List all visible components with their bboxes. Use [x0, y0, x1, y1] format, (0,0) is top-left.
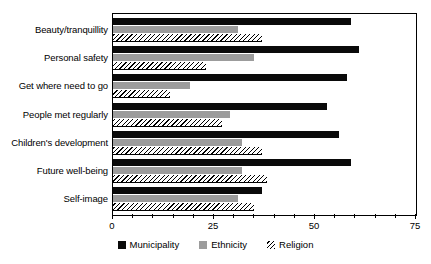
legend-item[interactable]: Ethnicity [199, 240, 247, 250]
legend-label: Religion [279, 240, 313, 250]
axis-tick-minor [233, 214, 234, 218]
bar-chart: Beauty/tranquillityPersonal safetyGet wh… [0, 0, 431, 264]
bar-religion [113, 62, 206, 70]
legend-item[interactable]: Municipality [118, 240, 180, 250]
bar-ethnicity [113, 167, 242, 174]
bar-group [113, 74, 416, 97]
hatched-swatch [267, 241, 275, 249]
category-label: People met regularly [0, 110, 108, 120]
axis-tick-minor [152, 214, 153, 218]
axis-tick-major [415, 214, 416, 219]
bar-religion [113, 175, 267, 183]
bar-municipality [113, 46, 359, 53]
category-label: Self-image [0, 194, 108, 204]
bar-ethnicity [113, 195, 238, 202]
bar-municipality [113, 159, 351, 166]
axis-tick-minor [294, 214, 295, 218]
bar-municipality [113, 103, 327, 110]
bar-religion [113, 34, 262, 42]
bar-ethnicity [113, 54, 254, 61]
legend-label: Ethnicity [211, 240, 247, 250]
plot-area [112, 13, 417, 216]
bar-group [113, 159, 416, 182]
bar-ethnicity [113, 26, 238, 33]
bar-group [113, 18, 416, 41]
bar-group [113, 131, 416, 154]
category-label: Beauty/tranquillity [0, 25, 108, 35]
legend-item[interactable]: Religion [267, 240, 313, 250]
bar-religion [113, 203, 254, 211]
axis-tick-minor [274, 214, 275, 218]
axis-tick-major [213, 214, 214, 219]
axis-tick-label: 0 [97, 220, 127, 231]
bar-ethnicity [113, 82, 190, 89]
bar-municipality [113, 18, 351, 25]
category-label: Personal safety [0, 53, 108, 63]
bar-municipality [113, 131, 339, 138]
bar-religion [113, 90, 170, 98]
category-label: Get where need to go [0, 81, 108, 91]
axis-tick-major [314, 214, 315, 219]
axis-tick-minor [395, 214, 396, 218]
axis-tick-label: 25 [198, 220, 228, 231]
value-axis: 0255075 [112, 214, 416, 238]
bar-municipality [113, 74, 347, 81]
axis-tick-label: 75 [400, 220, 430, 231]
axis-tick-minor [193, 214, 194, 218]
bar-group [113, 46, 416, 69]
bar-religion [113, 147, 262, 155]
axis-tick-minor [354, 214, 355, 218]
bar-group [113, 187, 416, 210]
chart-legend: MunicipalityEthnicityReligion [0, 240, 431, 250]
axis-tick-major [112, 214, 113, 219]
solid-gray-swatch [199, 241, 207, 249]
axis-tick-minor [173, 214, 174, 218]
bar-group [113, 103, 416, 126]
axis-tick-label: 50 [299, 220, 329, 231]
axis-tick-minor [253, 214, 254, 218]
bar-ethnicity [113, 139, 242, 146]
legend-label: Municipality [130, 240, 180, 250]
axis-tick-minor [375, 214, 376, 218]
axis-tick-minor [132, 214, 133, 218]
bar-ethnicity [113, 111, 230, 118]
bar-municipality [113, 187, 262, 194]
solid-black-swatch [118, 241, 126, 249]
category-axis-labels: Beauty/tranquillityPersonal safetyGet wh… [0, 13, 108, 215]
bar-religion [113, 119, 222, 127]
category-label: Children's development [0, 138, 108, 148]
category-label: Future well-being [0, 166, 108, 176]
axis-tick-minor [334, 214, 335, 218]
